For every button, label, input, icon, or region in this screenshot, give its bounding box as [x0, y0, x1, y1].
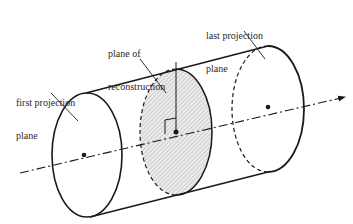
last-projection-plane-label: last projection plane	[206, 8, 263, 96]
last-plane-center-point	[266, 105, 271, 110]
first-projection-plane-label: first projection plane	[16, 75, 75, 163]
first-plane-label-line1: first projection	[16, 97, 75, 108]
reconstruction-label-line1: plane of	[108, 48, 165, 59]
last-plane-label-line1: last projection	[206, 30, 263, 41]
diagram-canvas: first projection plane plane of reconstr…	[0, 0, 353, 224]
reconstruction-label-line2: reconstruction	[108, 81, 165, 92]
plane-of-reconstruction-label: plane of reconstruction	[108, 26, 165, 114]
first-plane-center-point	[82, 153, 87, 158]
first-plane-label-line2: plane	[16, 130, 75, 141]
last-plane-label-line2: plane	[206, 63, 263, 74]
last-plane-front-edge	[268, 46, 304, 172]
